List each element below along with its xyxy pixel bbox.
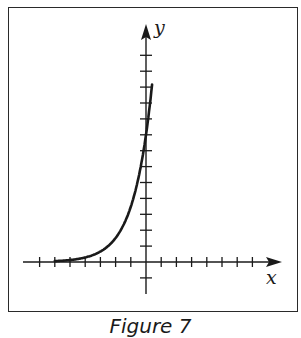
axes (23, 24, 282, 294)
y-axis-label: y (153, 16, 165, 38)
figure-caption: Figure 7 (0, 316, 301, 336)
exponential-curve (55, 85, 152, 262)
x-axis-label: x (266, 266, 277, 288)
